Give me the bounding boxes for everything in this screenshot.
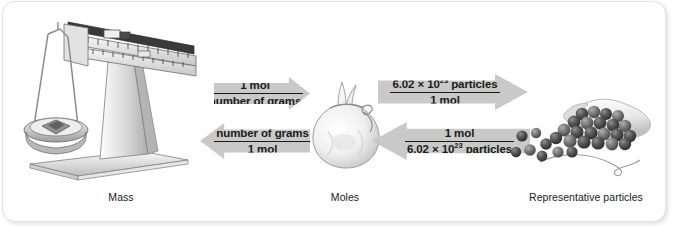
caption-moles: Moles <box>286 191 404 203</box>
balance-illustration <box>8 4 198 184</box>
caption-mass: Mass <box>62 191 180 203</box>
power-base: 10 <box>439 143 455 155</box>
power-exponent: 23 <box>454 141 462 150</box>
mole-conversion-figure: 1 mol number of grams number of grams 1 … <box>0 0 673 227</box>
triple-beam-balance-icon <box>8 4 198 184</box>
multiplication-sign: × <box>432 143 439 155</box>
spilled-spheres-icon <box>508 78 654 182</box>
conversion-factor-moles-to-mass: number of grams 1 mol <box>214 126 310 156</box>
conversion-factor-moles-to-particles: 6.02 × 1023 particles 1 mol <box>390 77 499 107</box>
caption-representative-particles: Representative particles <box>506 191 666 203</box>
avogadro-coefficient: 6.02 <box>407 143 432 155</box>
conversion-factor-particles-to-moles: 1 mol 6.02 × 1023 particles <box>405 126 514 156</box>
particles-illustration <box>508 78 654 182</box>
unit-particles: particles <box>463 143 513 155</box>
